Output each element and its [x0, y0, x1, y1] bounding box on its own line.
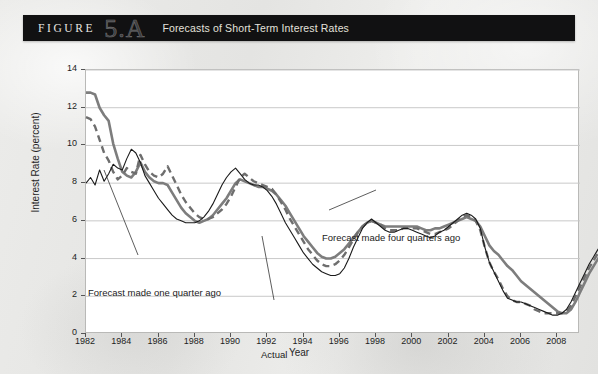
- x-tick-2004: 2004: [464, 336, 504, 346]
- x-tick-mark: [158, 333, 159, 337]
- x-axis-label: Year: [23, 347, 575, 358]
- x-tick-mark: [448, 333, 449, 337]
- chart-figure: Interest Rate (percent) Year 02468101214…: [23, 49, 575, 358]
- x-tick-mark: [556, 333, 557, 337]
- x-tick-mark: [121, 333, 122, 337]
- figure-banner: FIGURE 5.A Forecasts of Short-Term Inter…: [23, 15, 575, 41]
- y-axis-label: Interest Rate (percent): [30, 83, 41, 243]
- figure-number: 5.A: [104, 16, 145, 42]
- x-tick-1996: 1996: [319, 336, 359, 346]
- x-tick-mark: [375, 333, 376, 337]
- y-tick-2: 2: [51, 289, 77, 299]
- x-tick-mark: [520, 333, 521, 337]
- y-tick-4: 4: [51, 252, 77, 262]
- x-tick-mark: [266, 333, 267, 337]
- x-tick-mark: [484, 333, 485, 337]
- y-tick-8: 8: [51, 176, 77, 186]
- x-tick-1988: 1988: [174, 336, 214, 346]
- y-tick-mark: [81, 220, 85, 221]
- y-tick-mark: [81, 182, 85, 183]
- x-tick-2008: 2008: [536, 336, 576, 346]
- leader-four-quarters: [329, 190, 376, 210]
- y-tick-6: 6: [51, 214, 77, 224]
- x-tick-1992: 1992: [246, 336, 286, 346]
- y-tick-mark: [81, 295, 85, 296]
- annotation-forecast-one-quarter: Forecast made one quarter ago: [88, 287, 221, 298]
- x-tick-1984: 1984: [101, 336, 141, 346]
- annotation-actual: Actual: [261, 349, 287, 360]
- y-tick-mark: [81, 107, 85, 108]
- x-tick-2000: 2000: [391, 336, 431, 346]
- x-tick-1982: 1982: [65, 336, 105, 346]
- y-tick-10: 10: [51, 138, 77, 148]
- x-tick-2006: 2006: [500, 336, 540, 346]
- x-tick-1990: 1990: [210, 336, 250, 346]
- x-tick-mark: [230, 333, 231, 337]
- series-line-forecast-made-one-quarter-ago: [86, 117, 598, 313]
- x-tick-mark: [85, 333, 86, 337]
- x-tick-mark: [303, 333, 304, 337]
- y-tick-14: 14: [51, 63, 77, 73]
- x-tick-mark: [411, 333, 412, 337]
- annotation-forecast-four-quarters: Forecast made four quarters ago: [322, 232, 460, 243]
- x-tick-1986: 1986: [138, 336, 178, 346]
- x-tick-2002: 2002: [428, 336, 468, 346]
- y-tick-12: 12: [51, 101, 77, 111]
- figure-caption: Forecasts of Short-Term Interest Rates: [162, 22, 349, 34]
- figure-word: FIGURE: [38, 22, 95, 34]
- x-tick-1994: 1994: [283, 336, 323, 346]
- x-tick-mark: [194, 333, 195, 337]
- x-tick-mark: [339, 333, 340, 337]
- y-tick-mark: [81, 69, 85, 70]
- y-tick-mark: [81, 144, 85, 145]
- x-tick-1998: 1998: [355, 336, 395, 346]
- leader-actual: [262, 236, 274, 300]
- y-tick-mark: [81, 258, 85, 259]
